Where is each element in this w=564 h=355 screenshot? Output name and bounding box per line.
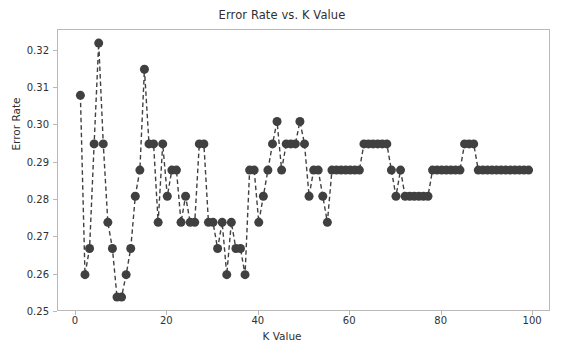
data-point [76, 91, 85, 100]
data-point [382, 139, 391, 148]
data-point [455, 166, 464, 175]
data-point [90, 139, 99, 148]
data-point [117, 293, 126, 302]
data-point [254, 218, 263, 227]
y-tick-label: 0.26 [9, 268, 49, 279]
data-point [263, 166, 272, 175]
data-point [355, 166, 364, 175]
data-point [163, 192, 172, 201]
data-point [387, 166, 396, 175]
data-point [300, 139, 309, 148]
data-point [396, 166, 405, 175]
data-point [154, 218, 163, 227]
chart-figure: Error Rate vs. K Value 0.250.260.270.280… [0, 0, 564, 355]
x-tick-label: 100 [510, 315, 554, 326]
y-tick-label: 0.28 [9, 193, 49, 204]
data-point [85, 244, 94, 253]
x-tick-label: 20 [144, 315, 188, 326]
chart-title: Error Rate vs. K Value [0, 8, 564, 22]
x-tick-label: 60 [327, 315, 371, 326]
data-point [131, 192, 140, 201]
y-tick-label: 0.32 [9, 44, 49, 55]
y-tick-label: 0.27 [9, 231, 49, 242]
data-point [268, 139, 277, 148]
data-point [295, 117, 304, 126]
y-axis-label: Error Rate [10, 64, 22, 184]
data-point [158, 139, 167, 148]
x-axis-label: K Value [0, 330, 564, 342]
data-point [108, 244, 117, 253]
data-point [423, 192, 432, 201]
data-point [99, 139, 108, 148]
data-point [524, 166, 533, 175]
data-point [318, 192, 327, 201]
data-point [190, 218, 199, 227]
data-point [391, 192, 400, 201]
data-point [250, 166, 259, 175]
y-tick-mark [53, 311, 57, 312]
data-point [236, 244, 245, 253]
data-point [277, 166, 286, 175]
data-point [172, 166, 181, 175]
data-point [80, 270, 89, 279]
data-point [469, 139, 478, 148]
data-point [140, 65, 149, 74]
data-point [122, 270, 131, 279]
y-tick-label: 0.25 [9, 306, 49, 317]
data-point [222, 270, 231, 279]
data-point [305, 192, 314, 201]
data-point [103, 218, 112, 227]
data-point [135, 166, 144, 175]
data-point [126, 244, 135, 253]
x-tick-label: 0 [53, 315, 97, 326]
data-point [199, 139, 208, 148]
data-point [273, 117, 282, 126]
x-tick-label: 80 [419, 315, 463, 326]
data-point [227, 218, 236, 227]
data-point [177, 218, 186, 227]
data-point [181, 192, 190, 201]
data-point [213, 244, 222, 253]
data-point [94, 39, 103, 48]
data-point [323, 218, 332, 227]
data-point [218, 218, 227, 227]
plot-area [57, 29, 550, 311]
data-point [291, 139, 300, 148]
plot-svg [58, 30, 551, 312]
data-point [259, 192, 268, 201]
data-point [241, 270, 250, 279]
data-point [209, 218, 218, 227]
x-tick-label: 40 [236, 315, 280, 326]
data-point [314, 166, 323, 175]
data-point [149, 139, 158, 148]
